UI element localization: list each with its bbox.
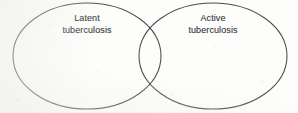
right-set-label-line-1: Active [169, 13, 257, 25]
right-set-label-line-2: tuberculosis [169, 25, 257, 37]
left-set-label-line-1: Latent [43, 13, 131, 25]
right-set-label: Active tuberculosis [169, 13, 257, 36]
left-set-label-line-2: tuberculosis [43, 25, 131, 37]
left-set-label: Latent tuberculosis [43, 13, 131, 36]
venn-diagram-figure: Latent tuberculosis Active tuberculosis [0, 0, 298, 113]
